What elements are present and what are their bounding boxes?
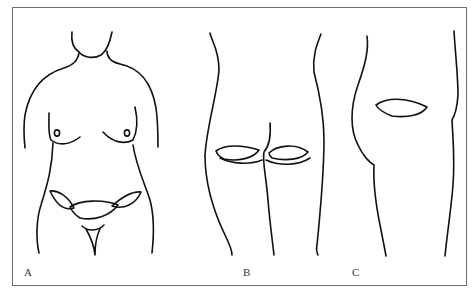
panel-b-drawing — [205, 33, 324, 255]
right-chest-line — [103, 107, 137, 142]
panel-label-b: B — [243, 267, 250, 278]
right-nipple — [124, 130, 129, 136]
left-gluteal-ellipse — [216, 146, 259, 160]
back-body-contour — [445, 31, 458, 256]
panel-label-c: C — [352, 267, 359, 278]
panel-c-drawing — [352, 31, 458, 256]
medical-illustration: A B C — [0, 0, 475, 296]
right-gluteal-ellipse — [269, 146, 308, 159]
left-shoulder-outline — [24, 53, 79, 148]
pubic-triangle — [82, 225, 104, 255]
left-body-contour — [205, 33, 232, 255]
right-body-contour — [314, 34, 324, 255]
neck-outline — [72, 32, 112, 57]
intergluteal-cleft — [263, 123, 274, 255]
left-nipple — [54, 130, 59, 136]
panel-a-drawing — [24, 32, 158, 255]
central-lower-abdominal-ellipse — [70, 201, 118, 219]
body-outline-drawing — [0, 0, 475, 296]
lateral-hip-ellipse — [376, 99, 427, 116]
left-torso-outline — [37, 143, 53, 253]
left-chest-line — [49, 113, 80, 144]
front-body-contour — [352, 36, 386, 256]
panel-label-a: A — [24, 267, 32, 278]
right-shoulder-outline — [107, 51, 158, 147]
